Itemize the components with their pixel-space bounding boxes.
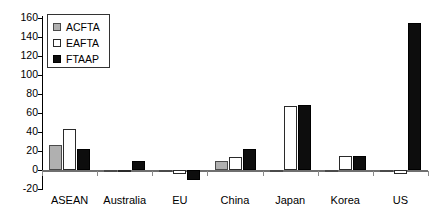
y-tick-label: 120: [8, 50, 38, 60]
legend-item-acfta: ACFTA: [53, 19, 109, 35]
bar-eafta-australia: [118, 170, 131, 172]
bar-acfta-asean: [49, 145, 62, 170]
legend-item-eafta: EAFTA: [53, 35, 109, 51]
y-tick-label: 0: [8, 164, 38, 174]
bar-ftaap-china: [243, 149, 256, 170]
bar-eafta-korea: [339, 156, 352, 170]
legend-label: EAFTA: [66, 38, 99, 49]
bar-ftaap-australia: [132, 161, 145, 171]
bar-acfta-eu: [159, 170, 172, 172]
bar-eafta-japan: [284, 106, 297, 170]
legend-label: ACFTA: [66, 22, 100, 33]
bar-eafta-china: [229, 157, 242, 170]
bar-chart: 160140120100806040200-20 ACFTA EAFTA FTA…: [0, 0, 436, 221]
white-swatch-icon: [53, 39, 61, 47]
y-tick-label: 140: [8, 31, 38, 41]
bar-eafta-asean: [63, 129, 76, 170]
category-label-china: China: [207, 194, 262, 206]
y-tick-label: 20: [8, 145, 38, 155]
legend-label: FTAAP: [66, 54, 99, 65]
bar-eafta-eu: [173, 170, 186, 174]
category-label-eu: EU: [152, 194, 207, 206]
gray-swatch-icon: [53, 23, 61, 31]
bar-acfta-australia: [104, 170, 117, 172]
bar-ftaap-eu: [187, 170, 200, 180]
bar-ftaap-us: [408, 23, 421, 170]
category-label-asean: ASEAN: [42, 194, 97, 206]
bar-acfta-china: [215, 161, 228, 171]
legend: ACFTA EAFTA FTAAP: [47, 14, 110, 68]
y-tick-label: 60: [8, 107, 38, 117]
category-label-australia: Australia: [97, 194, 152, 206]
bar-eafta-us: [394, 170, 407, 174]
legend-item-ftaap: FTAAP: [53, 51, 109, 67]
y-tick-label: -20: [8, 183, 38, 193]
category-label-korea: Korea: [318, 194, 373, 206]
bar-ftaap-asean: [77, 149, 90, 170]
y-tick-label: 80: [8, 88, 38, 98]
y-tick-label: 100: [8, 69, 38, 79]
category-label-us: US: [373, 194, 428, 206]
bar-ftaap-japan: [298, 105, 311, 170]
y-tick-label: 160: [8, 12, 38, 22]
bar-ftaap-korea: [353, 156, 366, 170]
bar-acfta-korea: [325, 170, 338, 172]
category-label-japan: Japan: [263, 194, 318, 206]
y-tick-label: 40: [8, 126, 38, 136]
black-swatch-icon: [53, 55, 61, 63]
bar-acfta-japan: [270, 170, 283, 172]
x-tick: [428, 171, 429, 176]
bar-acfta-us: [380, 170, 393, 172]
